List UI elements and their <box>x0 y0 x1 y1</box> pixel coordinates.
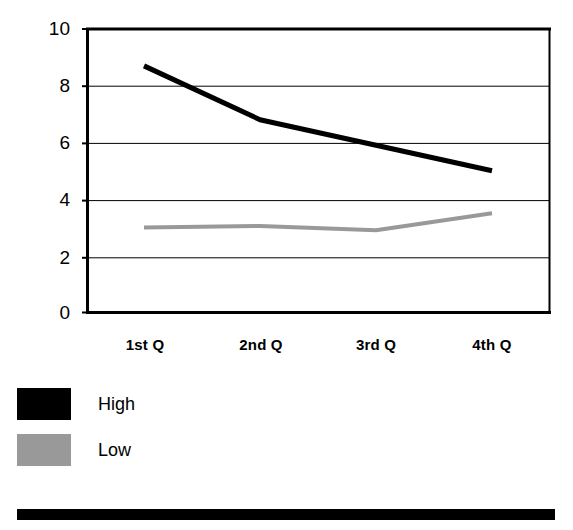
chart-legend: High Low <box>17 388 317 480</box>
x-axis-label-1st-q: 1st Q <box>97 337 193 353</box>
y-axis-label-8: 8 <box>0 76 70 95</box>
legend-label-high: High <box>98 394 135 414</box>
legend-item-low[interactable]: Low <box>17 434 317 480</box>
y-axis-label-6: 6 <box>0 133 70 152</box>
line-chart-figure: 10 8 6 4 2 0 1st Q 2nd Q 3rd Q 4th Q Hig… <box>0 0 573 530</box>
x-axis-label-4th-q: 4th Q <box>444 337 540 353</box>
legend-label-low: Low <box>98 440 131 460</box>
x-axis-label-3rd-q: 3rd Q <box>328 337 424 353</box>
y-axis-label-10: 10 <box>0 19 70 38</box>
y-axis-label-4: 4 <box>0 190 70 209</box>
x-axis-label-2nd-q: 2nd Q <box>213 337 309 353</box>
legend-item-high[interactable]: High <box>17 388 317 434</box>
y-axis-label-2: 2 <box>0 248 70 267</box>
legend-swatch-low <box>17 434 71 466</box>
legend-swatch-high <box>17 388 71 420</box>
bottom-rule-bar <box>17 509 555 520</box>
y-axis-label-0: 0 <box>0 303 70 322</box>
